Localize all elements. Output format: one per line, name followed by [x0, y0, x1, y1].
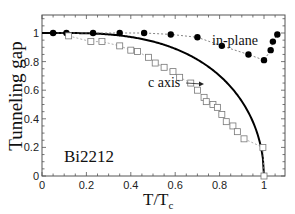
y-axis-title: Tunneling gap [5, 41, 26, 151]
annotation-bi2212: Bi2212 [64, 147, 114, 166]
y-tick-label: 1 [33, 27, 39, 39]
x-tick-label: 0.2 [79, 179, 94, 191]
in-plane-point [117, 30, 123, 36]
x-tick-label: 0.4 [123, 179, 138, 191]
in-plane-point [168, 31, 174, 37]
in-plane-point [141, 30, 147, 36]
c-axis-point [99, 39, 105, 45]
c-axis-point [261, 173, 267, 179]
c-axis-point [170, 69, 176, 75]
x-tick-label: 0 [39, 179, 45, 191]
c-axis-point [66, 33, 72, 39]
x-tick-label: 1 [261, 179, 267, 191]
c-axis-point [223, 119, 229, 125]
c-axis-point [128, 47, 134, 53]
c-axis-point [194, 87, 200, 93]
c-axis-point [161, 64, 167, 70]
c-axis-point [117, 43, 123, 49]
c-axis-point [146, 54, 152, 60]
y-tick-label: 0 [33, 170, 39, 182]
in-plane-point [90, 30, 96, 36]
c-axis-point [134, 49, 140, 55]
chart: 00.20.40.60.81 00.20.40.60.81 in-plane c… [0, 0, 295, 214]
in-plane-point [245, 51, 251, 57]
c-axis-point [214, 104, 220, 110]
in-plane-point [50, 30, 56, 36]
x-tick-label: 0.8 [212, 179, 227, 191]
annotation-in-plane: in-plane [212, 33, 258, 48]
in-plane-point [274, 31, 280, 37]
c-axis-point [152, 60, 158, 66]
c-axis-point [241, 136, 247, 142]
x-tick-label: 0.6 [168, 179, 183, 191]
c-axis-point [230, 123, 236, 129]
c-axis-point [203, 99, 209, 105]
in-plane-point [270, 38, 276, 44]
in-plane-point [194, 34, 200, 40]
c-axis-point [219, 112, 225, 118]
annotation-c-axis: c axis [148, 75, 180, 90]
in-plane-point [267, 47, 273, 53]
x-axis-title: T/Tc [143, 190, 174, 211]
c-axis-point [260, 144, 266, 150]
in-plane-point [261, 57, 267, 63]
c-axis-point [234, 129, 240, 135]
c-axis-point [88, 39, 94, 45]
